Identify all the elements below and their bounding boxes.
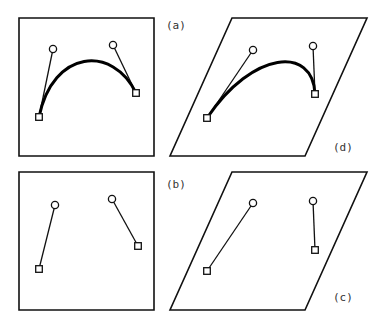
panel-label-c: (c) bbox=[333, 291, 353, 304]
bezier-curve bbox=[207, 62, 315, 118]
panel-frame-parallelogram bbox=[170, 172, 367, 310]
anchor-point-square-icon bbox=[204, 268, 211, 275]
panel-frame-square bbox=[19, 172, 154, 310]
control-point-circle-icon bbox=[309, 42, 316, 49]
control-point-circle-icon bbox=[49, 45, 56, 52]
control-point-circle-icon bbox=[109, 41, 116, 48]
panel-a: (a) bbox=[19, 18, 186, 156]
panel-frame-parallelogram bbox=[170, 18, 367, 156]
control-point-circle-icon bbox=[108, 195, 115, 202]
control-point-circle-icon bbox=[249, 46, 256, 53]
control-point-circle-icon bbox=[51, 201, 58, 208]
anchor-point-square-icon bbox=[135, 243, 142, 250]
tangent-line-start bbox=[39, 205, 55, 269]
anchor-point-square-icon bbox=[312, 91, 319, 98]
anchor-point-square-icon bbox=[36, 266, 43, 273]
bezier-curve bbox=[39, 61, 136, 117]
panel-label-a: (a) bbox=[166, 19, 186, 32]
control-point-circle-icon bbox=[249, 199, 256, 206]
panel-b: (b) bbox=[19, 172, 186, 310]
anchor-point-square-icon bbox=[133, 90, 140, 97]
tangent-line-end bbox=[112, 199, 138, 246]
anchor-point-square-icon bbox=[312, 247, 319, 254]
anchor-point-square-icon bbox=[204, 115, 211, 122]
panel-label-b: (b) bbox=[166, 178, 186, 191]
tangent-line-end bbox=[313, 201, 315, 250]
panel-d: (d) bbox=[170, 18, 367, 156]
panel-label-d: (d) bbox=[333, 141, 353, 154]
panel-c: (c) bbox=[170, 172, 367, 310]
control-point-circle-icon bbox=[309, 197, 316, 204]
bezier-affine-figure: (a) (d) (b) (c) bbox=[0, 0, 381, 327]
anchor-point-square-icon bbox=[36, 114, 43, 121]
